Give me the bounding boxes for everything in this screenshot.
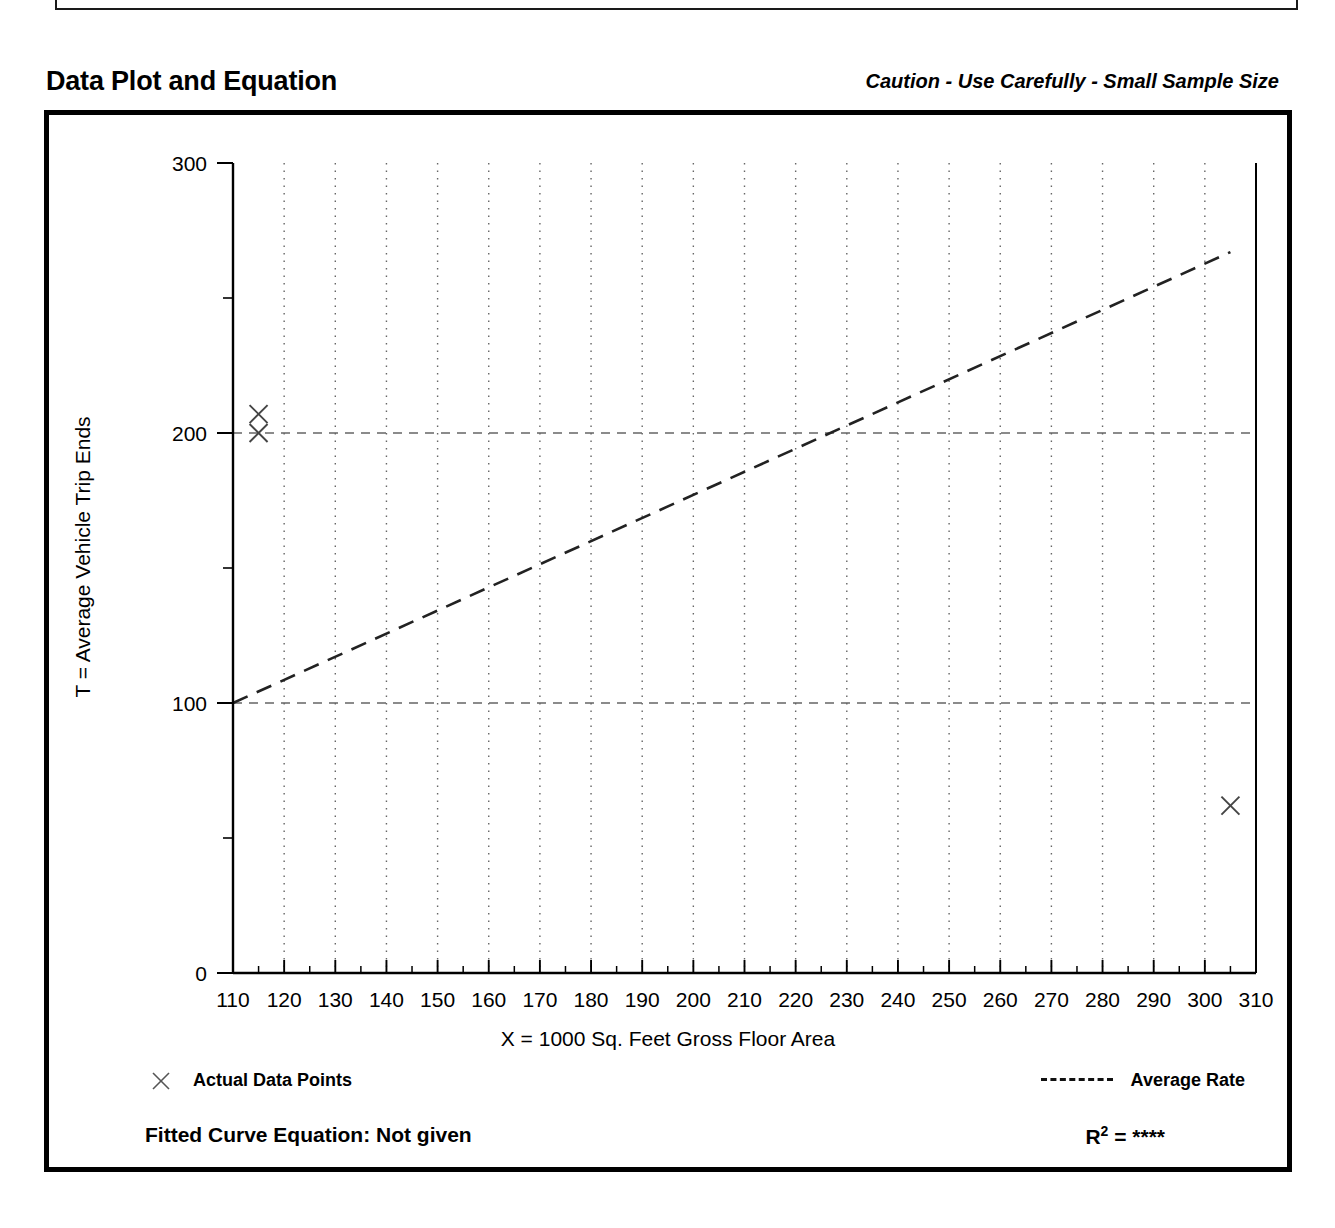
legend-label-data-points: Actual Data Points [193, 1070, 352, 1091]
svg-text:220: 220 [778, 988, 813, 1011]
svg-text:100: 100 [172, 692, 207, 715]
svg-text:290: 290 [1136, 988, 1171, 1011]
data-point-marker [250, 405, 268, 423]
svg-text:300: 300 [1187, 988, 1222, 1011]
chart-legend: Actual Data Points Average Rate [49, 1070, 1287, 1106]
dashed-line-icon [1041, 1078, 1113, 1083]
svg-text:280: 280 [1085, 988, 1120, 1011]
chart-panel: T = Average Vehicle Trip Ends 1101201301… [44, 110, 1292, 1172]
svg-text:140: 140 [369, 988, 404, 1011]
svg-text:180: 180 [574, 988, 609, 1011]
r2-prefix: R [1085, 1125, 1100, 1148]
svg-text:0: 0 [195, 962, 207, 985]
r2-stars: **** [1132, 1125, 1165, 1148]
fitted-curve-equation: Fitted Curve Equation: Not given [145, 1123, 472, 1147]
svg-text:170: 170 [522, 988, 557, 1011]
top-partial-frame [55, 0, 1298, 10]
svg-text:250: 250 [932, 988, 967, 1011]
page-title: Data Plot and Equation [46, 66, 337, 97]
x-axis-title: X = 1000 Sq. Feet Gross Floor Area [49, 1027, 1287, 1051]
scatter-plot-svg: 1101201301401501601701801902002102202302… [49, 115, 1287, 1015]
svg-text:190: 190 [625, 988, 660, 1011]
svg-text:240: 240 [880, 988, 915, 1011]
svg-text:200: 200 [676, 988, 711, 1011]
data-point-marker [1221, 797, 1239, 815]
chart-area: T = Average Vehicle Trip Ends 1101201301… [49, 115, 1287, 1167]
svg-text:150: 150 [420, 988, 455, 1011]
svg-text:160: 160 [471, 988, 506, 1011]
r2-equals: = [1108, 1125, 1132, 1148]
legend-entry-data-points: Actual Data Points [151, 1070, 352, 1091]
svg-text:130: 130 [318, 988, 353, 1011]
svg-text:110: 110 [216, 988, 249, 1011]
svg-text:300: 300 [172, 152, 207, 175]
r-squared-value: R2 = **** [1085, 1123, 1165, 1149]
caution-note: Caution - Use Carefully - Small Sample S… [866, 70, 1279, 93]
svg-text:200: 200 [172, 422, 207, 445]
x-marker-icon [151, 1071, 171, 1091]
svg-text:210: 210 [727, 988, 762, 1011]
page-header: Data Plot and Equation Caution - Use Car… [0, 66, 1335, 106]
legend-label-average-rate: Average Rate [1131, 1070, 1245, 1091]
svg-text:270: 270 [1034, 988, 1069, 1011]
svg-text:260: 260 [983, 988, 1018, 1011]
svg-text:310: 310 [1238, 988, 1273, 1011]
svg-text:120: 120 [267, 988, 302, 1011]
svg-text:230: 230 [829, 988, 864, 1011]
legend-entry-average-rate: Average Rate [1041, 1070, 1245, 1091]
chart-footer: Fitted Curve Equation: Not given R2 = **… [49, 1123, 1287, 1163]
